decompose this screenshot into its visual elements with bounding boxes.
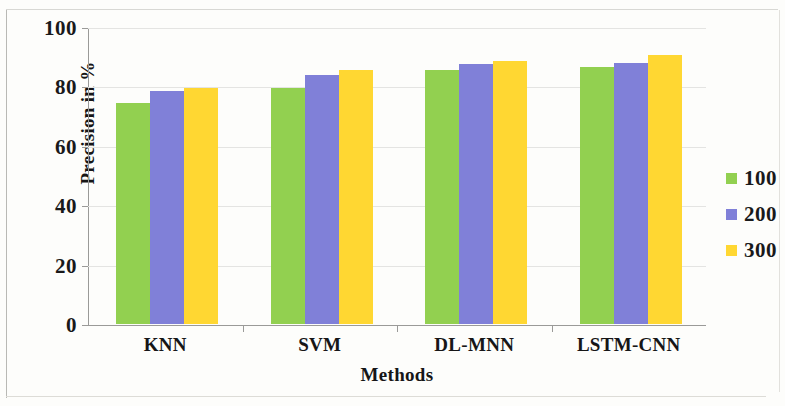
bar-dl-mnn-300 <box>493 61 527 324</box>
y-tick-mark <box>82 28 88 29</box>
gridline <box>88 28 706 29</box>
legend-label: 200 <box>744 202 777 227</box>
bar-lstm-cnn-300 <box>648 55 682 324</box>
y-tick-label: 60 <box>55 134 77 159</box>
figure-bar-chart: Precision in % 020406080100 KNNSVMDL-MNN… <box>0 0 785 406</box>
figure-border-bottom <box>6 396 766 397</box>
y-tick-label: 20 <box>55 253 77 278</box>
figure-border-top <box>6 9 778 10</box>
legend-label: 100 <box>744 166 777 191</box>
y-tick-mark <box>82 147 88 148</box>
bar-dl-mnn-200 <box>459 64 493 324</box>
bar-svm-200 <box>305 75 339 324</box>
x-tick-mark <box>552 325 553 332</box>
bar-svm-100 <box>271 88 305 324</box>
figure-border-left <box>6 10 7 398</box>
y-tick-label: 0 <box>66 313 77 338</box>
y-tick-mark <box>82 266 88 267</box>
bar-lstm-cnn-100 <box>580 67 614 324</box>
y-axis-line <box>88 28 89 326</box>
x-tick-mark <box>397 325 398 332</box>
y-tick-label: 100 <box>44 16 77 41</box>
legend-item-100[interactable]: 100 <box>726 160 782 196</box>
legend-swatch-icon <box>726 245 737 256</box>
bar-knn-200 <box>150 91 184 324</box>
x-tick-mark <box>243 325 244 332</box>
bar-dl-mnn-100 <box>425 70 459 324</box>
x-category-label-lstm-cnn: LSTM-CNN <box>577 334 681 356</box>
legend-label: 300 <box>744 238 777 263</box>
bar-svm-300 <box>339 70 373 324</box>
bar-knn-100 <box>116 103 150 324</box>
bar-lstm-cnn-200 <box>614 63 648 324</box>
x-category-label-dl-mnn: DL-MNN <box>434 334 514 356</box>
y-tick-label: 80 <box>55 75 77 100</box>
y-tick-label: 40 <box>55 194 77 219</box>
legend-item-300[interactable]: 300 <box>726 232 782 268</box>
x-category-label-knn: KNN <box>144 334 187 356</box>
y-tick-mark <box>82 325 88 326</box>
legend-item-200[interactable]: 200 <box>726 196 782 232</box>
legend-swatch-icon <box>726 209 737 220</box>
x-category-label-svm: SVM <box>298 334 341 356</box>
y-tick-mark <box>82 206 88 207</box>
plot-area: 020406080100 KNNSVMDL-MNNLSTM-CNN <box>88 28 706 325</box>
y-tick-mark <box>82 87 88 88</box>
legend-swatch-icon <box>726 173 737 184</box>
bar-knn-300 <box>184 88 218 324</box>
legend: 100200300 <box>726 160 782 268</box>
x-axis-title: Methods <box>88 364 706 386</box>
